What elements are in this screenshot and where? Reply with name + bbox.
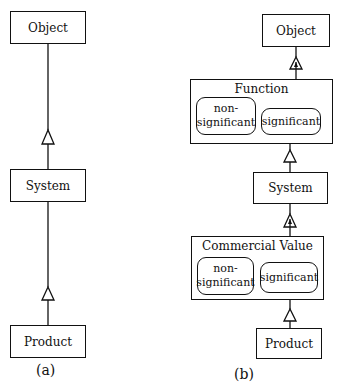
a-system-node: System bbox=[10, 169, 86, 202]
b-system-label: System bbox=[268, 181, 312, 195]
b-commercial-value-significant: significant bbox=[260, 262, 318, 293]
b-function-non-significant: non- significant bbox=[196, 97, 256, 135]
b-commercial-value-group: Commercial Value non- significant signif… bbox=[191, 236, 324, 300]
caption-b: (b) bbox=[234, 366, 254, 382]
b-function-title: Function bbox=[191, 82, 332, 96]
a-product-node: Product bbox=[10, 325, 86, 358]
b-product-label: Product bbox=[265, 337, 313, 351]
b-product-node: Product bbox=[256, 328, 322, 359]
b-commercial-value-title: Commercial Value bbox=[192, 239, 323, 253]
b-object-label: Object bbox=[276, 24, 316, 38]
a-object-label: Object bbox=[28, 21, 68, 35]
b-system-node: System bbox=[253, 172, 328, 204]
caption-a: (a) bbox=[36, 362, 55, 378]
a-product-label: Product bbox=[24, 335, 72, 349]
b-function-significant: significant bbox=[261, 108, 321, 135]
a-object-node: Object bbox=[10, 11, 86, 44]
b-object-node: Object bbox=[262, 14, 330, 47]
b-commercial-value-non-significant: non- significant bbox=[197, 257, 254, 295]
a-system-label: System bbox=[26, 179, 70, 193]
b-function-group: Function non- significant significant bbox=[190, 79, 333, 144]
